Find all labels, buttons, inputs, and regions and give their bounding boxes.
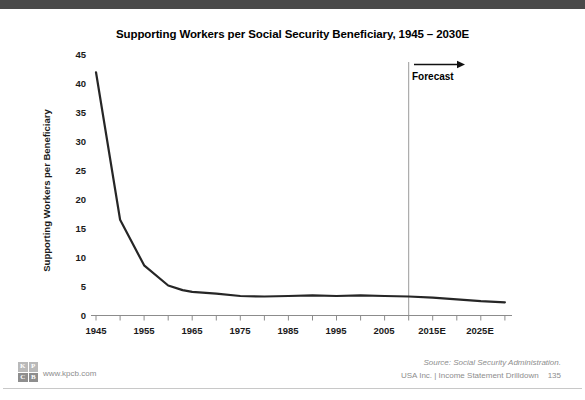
logo-letter-c: C: [18, 373, 28, 383]
footer-divider: [3, 388, 582, 389]
chart-svg: [0, 0, 585, 400]
data-series-line: [96, 72, 505, 302]
logo-letter-k: K: [18, 362, 28, 372]
source-attribution: Source: Social Security Administration.: [423, 358, 561, 367]
forecast-arrow-icon: [414, 61, 465, 68]
chart-plot-area: Supporting Workers per Beneficiary 0 5 1…: [0, 0, 585, 400]
kpcb-url-text[interactable]: www.kpcb.com: [43, 369, 96, 378]
deck-footer: USA Inc. | Income Statement Drilldown135: [401, 371, 561, 380]
logo-letter-b: B: [29, 373, 39, 383]
logo-letter-p: P: [29, 362, 39, 372]
slide-canvas: Supporting Workers per Social Security B…: [0, 0, 585, 400]
forecast-annotation-label: Forecast: [412, 71, 454, 82]
kpcb-logo-icon: K P C B: [18, 362, 38, 382]
x-axis-ticks: [96, 316, 505, 321]
deck-title: USA Inc. | Income Statement Drilldown: [401, 371, 539, 380]
page-number: 135: [548, 371, 561, 380]
